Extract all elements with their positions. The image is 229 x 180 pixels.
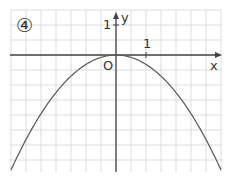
- y-axis-label: y: [121, 10, 129, 25]
- origin-label: O: [103, 58, 113, 73]
- graph-panel: 1 1 y x O ④: [0, 0, 229, 180]
- parabola-chart: 1 1 y x O ④: [0, 0, 229, 180]
- x-tick-label: 1: [143, 36, 151, 51]
- y-tick-label: 1: [103, 17, 111, 32]
- x-axis-label: x: [210, 58, 218, 73]
- panel-number-label: ④: [16, 14, 33, 36]
- y-axis-arrow-icon: [113, 12, 119, 19]
